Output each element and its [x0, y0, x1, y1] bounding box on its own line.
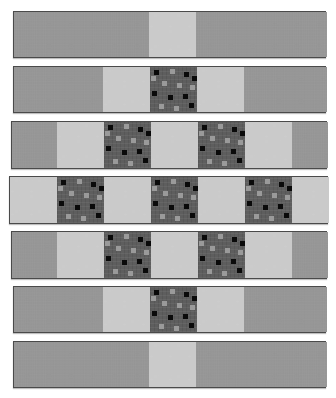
fabric-dot [222, 161, 227, 166]
fabric-dot [151, 296, 156, 301]
fabric-dot [246, 186, 251, 191]
fabric-dot [185, 182, 190, 187]
fabric-dot [191, 195, 196, 200]
fabric-dot [210, 246, 215, 251]
fabric-motif-light [244, 287, 327, 332]
fabric-motif-light [14, 342, 149, 387]
quilt-row-2 [13, 66, 326, 113]
quilt-row-4 [9, 176, 328, 224]
fabric-dot [61, 180, 66, 185]
fabric-dot [231, 259, 236, 264]
fabric-dot [113, 159, 118, 164]
fabric-motif-dark [149, 12, 196, 57]
fabric-dot [155, 180, 160, 185]
quilt-block-light [196, 12, 327, 57]
fabric-dot [200, 256, 205, 261]
quilt-row-3 [11, 121, 327, 169]
fabric-dot [174, 326, 179, 331]
quilt-block-light [244, 287, 327, 332]
fabric-dot [278, 204, 283, 209]
fabric-dot [279, 182, 284, 187]
quilt-block-light [196, 342, 327, 387]
fabric-dot [238, 250, 243, 255]
fabric-dot [108, 235, 113, 240]
fabric-dot [105, 241, 110, 246]
quilt-block-dark [151, 232, 198, 278]
fabric-dot [124, 124, 129, 129]
quilt-block-dark [149, 12, 196, 57]
fabric-dot [113, 269, 118, 274]
fabric-motif-dark [197, 287, 244, 332]
quilt-block-gray [245, 177, 292, 223]
fabric-dot [272, 193, 277, 198]
fabric-dot [152, 91, 157, 96]
fabric-motif-gray [150, 287, 197, 332]
fabric-dot [122, 260, 127, 265]
fabric-dot [131, 248, 136, 253]
fabric-motif-dark [198, 177, 245, 223]
fabric-dot [269, 216, 274, 221]
fabric-dot [174, 106, 179, 111]
quilt-block-gray [150, 67, 197, 112]
quilt-block-dark [245, 122, 292, 168]
fabric-motif-dark [104, 177, 151, 223]
fabric-motif-dark [245, 122, 292, 168]
fabric-dot [122, 150, 127, 155]
quilt-block-dark [292, 177, 329, 223]
fabric-dot [225, 248, 230, 253]
quilt-block-gray [198, 122, 245, 168]
fabric-motif-gray [198, 122, 245, 168]
quilt-row-5 [11, 231, 327, 279]
quilt-block-dark [104, 177, 151, 223]
fabric-dot [105, 131, 110, 136]
fabric-motif-light [292, 122, 328, 168]
fabric-dot [199, 131, 204, 136]
fabric-dot [178, 193, 183, 198]
fabric-dot [163, 191, 168, 196]
fabric-motif-light [14, 67, 103, 112]
fabric-dot [144, 140, 149, 145]
fabric-motif-dark [292, 177, 329, 223]
fabric-motif-light [12, 122, 57, 168]
fabric-motif-dark [197, 67, 244, 112]
quilt-block-light [12, 232, 57, 278]
fabric-dot [159, 324, 164, 329]
quilt-block-light [292, 122, 328, 168]
fabric-dot [237, 158, 242, 163]
quilt-block-dark [245, 232, 292, 278]
page-margin-bottom [0, 392, 336, 398]
fabric-dot [108, 125, 113, 130]
fabric-dot [265, 179, 270, 184]
fabric-dot [231, 149, 236, 154]
fabric-motif-dark [57, 122, 104, 168]
fabric-dot [59, 201, 64, 206]
quilt-block-gray [104, 122, 151, 168]
fabric-dot [225, 138, 230, 143]
fabric-dot [77, 179, 82, 184]
fabric-dot [190, 213, 195, 218]
quilt-block-dark [197, 67, 244, 112]
fabric-dot [138, 127, 143, 132]
fabric-dot [84, 193, 89, 198]
fabric-dot [96, 213, 101, 218]
fabric-motif-light [196, 12, 327, 57]
fabric-motif-gray [245, 177, 292, 223]
fabric-dot [189, 103, 194, 108]
fabric-dot [69, 191, 74, 196]
fabric-motif-gray [57, 177, 104, 223]
fabric-dot [177, 83, 182, 88]
fabric-dot [202, 125, 207, 130]
fabric-motif-dark [57, 232, 104, 278]
fabric-dot [106, 146, 111, 151]
quilt-block-dark [103, 67, 150, 112]
fabric-dot [210, 136, 215, 141]
fabric-dot [184, 204, 189, 209]
quilt-block-light [14, 12, 149, 57]
fabric-motif-light [14, 287, 103, 332]
fabric-dot [207, 159, 212, 164]
fabric-motif-dark [103, 67, 150, 112]
fabric-dot [137, 149, 142, 154]
fabric-dot [257, 191, 262, 196]
fabric-dot [199, 241, 204, 246]
fabric-dot [200, 146, 205, 151]
